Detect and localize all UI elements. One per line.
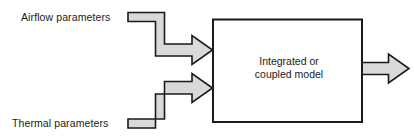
airflow-input-arrow <box>128 13 213 65</box>
airflow-parameters-label: Airflow parameters <box>21 11 110 23</box>
thermal-parameters-label: Thermal parameters <box>12 117 108 129</box>
process-box-label: Integrated or coupled model <box>216 55 362 80</box>
thermal-input-arrow <box>128 74 213 129</box>
diagram-canvas: Airflow parameters Thermal parameters In… <box>0 0 414 140</box>
process-box-label-line-1: Integrated or <box>216 55 362 68</box>
process-box-label-line-2: coupled model <box>216 68 362 81</box>
output-arrow <box>361 54 409 83</box>
